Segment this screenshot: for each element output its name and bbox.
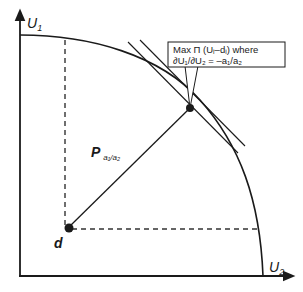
solution-ray bbox=[69, 108, 190, 227]
x-axis-label: U2 bbox=[269, 259, 284, 277]
tangent-point bbox=[186, 104, 194, 112]
callout-line-2: ∂U₁/∂U₂ = –a₁/a₂ bbox=[173, 55, 242, 66]
disagreement-point bbox=[65, 224, 74, 233]
y-axis-label: U1 bbox=[27, 15, 42, 33]
callout-line-1: Max Π (Uᵢ–dᵢ) where bbox=[173, 44, 258, 55]
disagreement-label: d bbox=[54, 235, 63, 251]
bargaining-diagram: Max Π (Uᵢ–dᵢ) where ∂U₁/∂U₂ = –a₁/a₂ U1 … bbox=[0, 0, 303, 292]
solution-label: Pa₁/a₂ bbox=[91, 144, 120, 162]
